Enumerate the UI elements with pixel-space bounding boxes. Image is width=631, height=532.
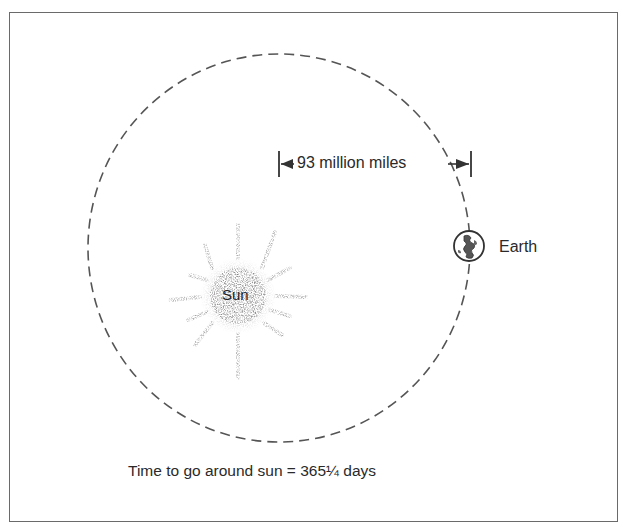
earth-label: Earth [499,238,537,256]
earth-icon [454,231,484,261]
distance-label: 93 million miles [297,154,406,172]
orbit-path [88,54,470,442]
orbit-period-caption: Time to go around sun = 365¼ days [128,462,376,480]
sun-label: Sun [222,286,249,303]
orbit-diagram [0,0,631,532]
